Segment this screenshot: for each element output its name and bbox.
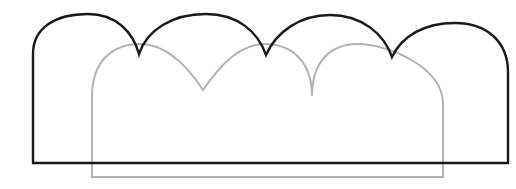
arch-outline-canvas [0,0,516,189]
arch-diagram-figure [0,0,516,189]
canvas-background [0,0,516,189]
